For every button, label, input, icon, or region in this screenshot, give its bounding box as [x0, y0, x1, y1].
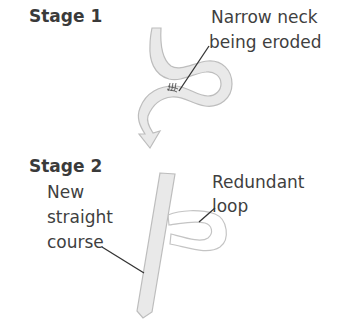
stage-2-title: Stage 2	[29, 156, 102, 176]
redundant-loop	[168, 211, 226, 251]
stage-1: Stage 1 Narrow neck being eroded	[29, 6, 321, 148]
straight-channel-arrow	[137, 173, 175, 318]
stage-2: Stage 2 New straight course Redundant lo…	[29, 156, 305, 318]
oxbow-lake-diagram: Stage 1 Narrow neck being eroded Stage 2…	[0, 0, 343, 330]
new-course-label-line2: straight	[47, 207, 113, 227]
narrow-neck-label-line2: being eroded	[209, 32, 321, 52]
new-course-label-line1: New	[47, 182, 84, 202]
new-course-label-line3: course	[47, 232, 104, 252]
redundant-loop-label-line1: Redundant	[212, 172, 305, 192]
narrow-neck-label-line1: Narrow neck	[211, 7, 318, 27]
redundant-loop-label-line2: loop	[212, 196, 248, 216]
stage-1-title: Stage 1	[29, 6, 102, 26]
new-course-leader-line	[102, 247, 144, 273]
